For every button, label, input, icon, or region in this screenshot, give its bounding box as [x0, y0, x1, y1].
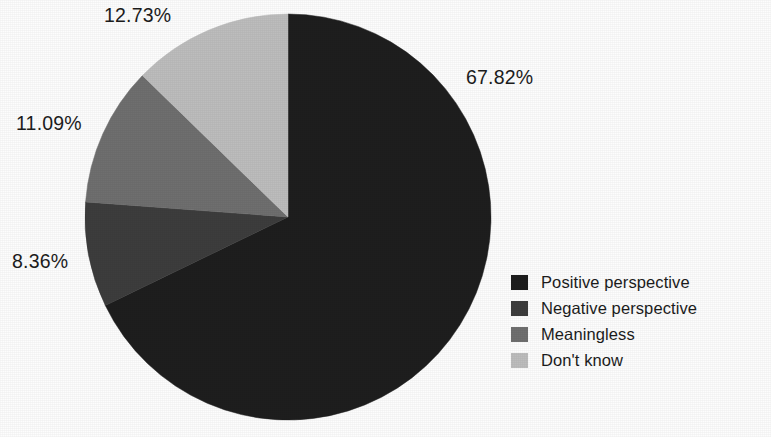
chart-legend: Positive perspective Negative perspectiv… — [511, 270, 697, 374]
slice-label-positive-perspective: 67.82% — [466, 66, 533, 89]
legend-item-negative-perspective: Negative perspective — [511, 296, 697, 320]
legend-swatch-icon-meaningless — [511, 327, 528, 342]
legend-item-dont-know: Don't know — [511, 348, 697, 372]
slice-label-negative-perspective: 8.36% — [12, 250, 68, 273]
pie-slice-group — [85, 14, 491, 420]
legend-item-positive-perspective: Positive perspective — [511, 270, 697, 294]
slice-label-meaningless: 11.09% — [16, 112, 82, 135]
slice-label-dont-know: 12.73% — [104, 4, 171, 27]
legend-label-negative-perspective: Negative perspective — [541, 299, 697, 318]
legend-label-positive-perspective: Positive perspective — [541, 273, 690, 292]
legend-swatch-icon-dont-know — [511, 353, 528, 368]
pie-svg — [83, 12, 493, 423]
clipped-title-remnant — [120, 0, 540, 3]
legend-swatch-icon-positive-perspective — [511, 275, 528, 290]
pie-chart-figure: 67.82% 12.73% 11.09% 8.36% Positive pers… — [0, 0, 771, 437]
legend-label-meaningless: Meaningless — [541, 325, 635, 344]
pie-chart-graphic — [83, 12, 493, 423]
legend-label-dont-know: Don't know — [541, 351, 623, 370]
legend-swatch-icon-negative-perspective — [511, 301, 528, 316]
legend-item-meaningless: Meaningless — [511, 322, 697, 346]
